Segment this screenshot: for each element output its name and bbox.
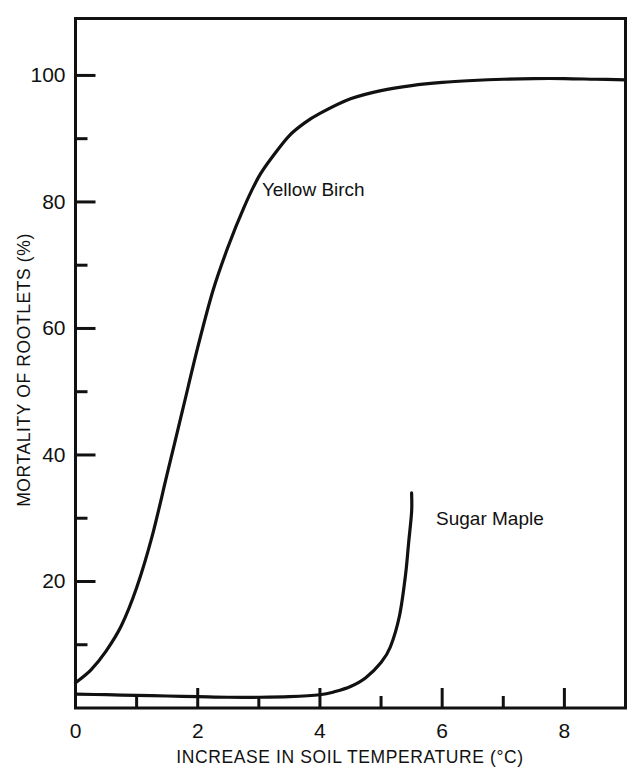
y-tick-label: 40	[42, 443, 65, 466]
chart-background	[0, 0, 643, 776]
y-tick-label: 80	[42, 190, 65, 213]
y-tick-label: 20	[42, 569, 65, 592]
x-tick-label: 0	[70, 719, 82, 742]
y-tick-label: 60	[42, 316, 65, 339]
x-axis-title: INCREASE IN SOIL TEMPERATURE (°C)	[176, 747, 523, 767]
x-tick-label: 2	[192, 719, 204, 742]
y-axis-title: MORTALITY OF ROOTLETS (%)	[14, 233, 34, 507]
y-tick-label: 100	[30, 63, 65, 86]
series-label-yellow-birch: Yellow Birch	[262, 179, 365, 200]
x-tick-label: 4	[314, 719, 326, 742]
x-tick-label: 6	[436, 719, 448, 742]
mortality-vs-soil-temperature-chart: 02468 20406080100 Yellow BirchSugar Mapl…	[0, 0, 643, 776]
chart-figure: 02468 20406080100 Yellow BirchSugar Mapl…	[0, 0, 643, 776]
series-label-sugar-maple: Sugar Maple	[436, 508, 544, 529]
x-tick-label: 8	[559, 719, 571, 742]
